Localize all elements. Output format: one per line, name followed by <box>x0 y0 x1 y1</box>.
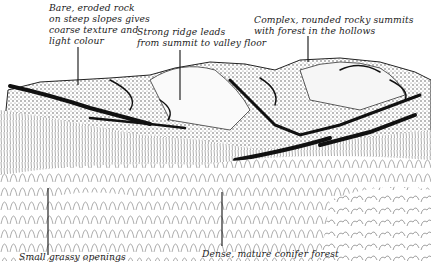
annotation-grassy-openings: Small grassy openings <box>19 251 126 262</box>
annotation-bare-rock: Bare, eroded rock on steep slopes gives … <box>49 2 150 46</box>
conifer-forest-area <box>0 156 431 261</box>
annotation-rocky-summits: Complex, rounded rocky summits with fore… <box>254 14 414 36</box>
annotation-strong-ridge: Strong ridge leads from summit to valley… <box>137 26 266 48</box>
annotation-conifer-forest: Dense, mature conifer forest <box>202 248 339 259</box>
